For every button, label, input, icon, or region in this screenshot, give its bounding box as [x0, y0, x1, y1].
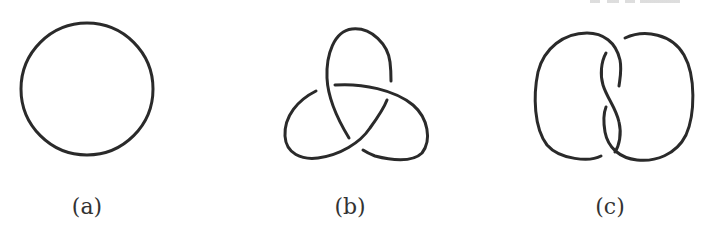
unknot-diagram [21, 23, 153, 155]
panel-label-b: (b) [320, 194, 380, 220]
panel-label-a: (a) [57, 194, 117, 220]
knot-diagrams-figure: (a) (b) (c) [0, 0, 703, 242]
figure-eight-middle-strand [601, 53, 620, 152]
panel-label-c: (c) [580, 194, 640, 220]
trefoil-left-lobe [285, 91, 387, 158]
unknot-circle [21, 23, 153, 155]
trefoil-diagram [285, 29, 428, 160]
figure-eight-diagram [535, 33, 693, 160]
